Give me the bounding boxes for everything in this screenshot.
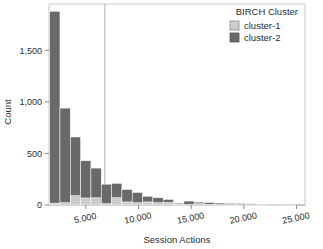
bar-segment-cluster-2 xyxy=(215,203,225,204)
bar-segment-cluster-2 xyxy=(122,190,132,202)
legend-entry-cluster-1[interactable]: cluster-1 xyxy=(230,20,280,31)
histogram-bin[interactable] xyxy=(225,203,235,205)
bar-segment-cluster-1 xyxy=(60,203,70,205)
legend-label-cluster-1: cluster-1 xyxy=(244,20,280,31)
histogram-bin[interactable] xyxy=(277,205,287,206)
bar-segment-cluster-2 xyxy=(70,137,80,196)
histogram-bin[interactable] xyxy=(101,184,111,205)
histogram-bin[interactable] xyxy=(205,203,215,206)
y-tick-label: 1,000 xyxy=(19,97,42,107)
bar-segment-cluster-2 xyxy=(101,184,111,204)
histogram-bin[interactable] xyxy=(70,137,80,205)
bar-segment-cluster-1 xyxy=(122,202,132,205)
bar-segment-cluster-2 xyxy=(143,196,153,202)
histogram-bin[interactable] xyxy=(184,201,194,205)
bar-segment-cluster-2 xyxy=(287,204,297,205)
histogram-bin[interactable] xyxy=(122,190,132,205)
histogram-bin[interactable] xyxy=(266,205,276,206)
bar-segment-cluster-2 xyxy=(163,199,173,202)
bar-segment-cluster-1 xyxy=(70,196,80,205)
histogram-bin[interactable] xyxy=(163,199,173,205)
histogram-bin[interactable] xyxy=(246,204,256,206)
bar-segment-cluster-1 xyxy=(153,203,163,205)
bar-segment-cluster-2 xyxy=(174,203,184,204)
histogram-bin[interactable] xyxy=(50,11,60,205)
bar-segment-cluster-2 xyxy=(246,204,256,205)
bar-segment-cluster-1 xyxy=(132,203,142,205)
bar-segment-cluster-2 xyxy=(194,202,204,204)
x-axis-title: Session Actions xyxy=(143,234,210,245)
bar-segment-cluster-1 xyxy=(143,202,153,205)
bar-segment-cluster-2 xyxy=(112,183,122,197)
bar-segment-cluster-2 xyxy=(153,198,163,203)
legend-entry-cluster-2[interactable]: cluster-2 xyxy=(230,32,280,43)
bar-segment-cluster-2 xyxy=(235,203,245,204)
histogram-bin[interactable] xyxy=(91,168,101,205)
histogram-bin[interactable] xyxy=(215,203,225,205)
bar-segment-cluster-1 xyxy=(163,203,173,205)
bar-segment-cluster-1 xyxy=(81,198,91,205)
bar-segment-cluster-1 xyxy=(91,198,101,205)
legend-swatch-cluster-1 xyxy=(230,21,239,30)
bar-segment-cluster-2 xyxy=(225,203,235,204)
legend-swatch-cluster-2 xyxy=(230,33,239,42)
histogram-bin[interactable] xyxy=(287,204,297,205)
histogram-bin[interactable] xyxy=(174,203,184,205)
bar-segment-cluster-2 xyxy=(266,205,276,206)
bar-segment-cluster-1 xyxy=(50,203,60,205)
y-tick-label: 1,500 xyxy=(19,46,42,56)
legend-title: BIRCH Cluster xyxy=(236,6,298,17)
bar-segment-cluster-2 xyxy=(50,11,60,203)
legend-label-cluster-2: cluster-2 xyxy=(244,32,280,43)
bar-segment-cluster-2 xyxy=(132,192,142,202)
histogram-bin[interactable] xyxy=(153,198,163,205)
chart-canvas: 5.00010.00015.00020.00025.000 05001,0001… xyxy=(0,0,323,249)
histogram-bin[interactable] xyxy=(132,192,142,205)
bar-segment-cluster-2 xyxy=(184,201,194,204)
bar-segment-cluster-2 xyxy=(81,161,91,198)
histogram-bin[interactable] xyxy=(143,196,153,205)
histogram-bin[interactable] xyxy=(112,183,122,205)
histogram-bin[interactable] xyxy=(60,108,70,205)
bar-segment-cluster-2 xyxy=(256,204,266,205)
y-axis-title: Count xyxy=(2,99,13,125)
bar-segment-cluster-2 xyxy=(91,168,101,198)
histogram-figure: 5.00010.00015.00020.00025.000 05001,0001… xyxy=(0,0,323,249)
bar-segment-cluster-2 xyxy=(205,203,215,205)
y-tick-label: 0 xyxy=(37,200,42,210)
bar-segment-cluster-2 xyxy=(277,205,287,206)
bar-segment-cluster-1 xyxy=(112,198,122,205)
bar-segment-cluster-2 xyxy=(60,108,70,203)
histogram-bin[interactable] xyxy=(256,204,266,205)
y-tick-label: 500 xyxy=(27,149,42,159)
histogram-bin[interactable] xyxy=(194,202,204,205)
histogram-bin[interactable] xyxy=(81,161,91,205)
